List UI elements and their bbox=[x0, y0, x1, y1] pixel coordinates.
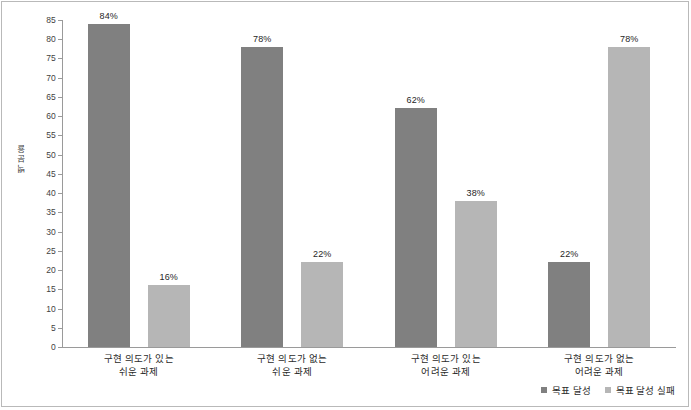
category-label-line1: 구현 의도가 없는 bbox=[523, 352, 677, 365]
y-axis-tick-label: 75 bbox=[46, 53, 56, 63]
y-axis-tick-label: 20 bbox=[46, 265, 56, 275]
y-axis-tick-label: 40 bbox=[46, 188, 56, 198]
x-axis-category-label: 구현 의도가 있는쉬운 과제 bbox=[62, 352, 216, 378]
legend-item[interactable]: 목표 달성 bbox=[541, 383, 591, 397]
chart-legend: 목표 달성목표 달성 실패 bbox=[541, 383, 675, 397]
category-label-line1: 구현 의도가 있는 bbox=[62, 352, 216, 365]
y-axis-tick-label: 55 bbox=[46, 130, 56, 140]
y-axis-tick-label: 60 bbox=[46, 111, 56, 121]
category-label-line2: 어려운 과제 bbox=[523, 365, 677, 378]
y-axis-tick-label: 70 bbox=[46, 73, 56, 83]
y-axis-tick-label: 45 bbox=[46, 169, 56, 179]
bar-value-label: 16% bbox=[159, 272, 178, 282]
bar[interactable]: 16% bbox=[148, 285, 190, 347]
y-axis-tick-label: 0 bbox=[51, 342, 56, 352]
bar-group: 22%78% bbox=[523, 20, 677, 347]
x-axis-line bbox=[62, 347, 676, 348]
bar-chart: 백분율 0510152025303540455055606570758085 8… bbox=[0, 0, 691, 410]
bar-group: 84%16% bbox=[62, 20, 216, 347]
y-axis-tick-label: 50 bbox=[46, 150, 56, 160]
legend-label: 목표 달성 실패 bbox=[616, 383, 675, 397]
y-axis-tick-label: 80 bbox=[46, 34, 56, 44]
bar[interactable]: 62% bbox=[395, 108, 437, 347]
y-axis-tick-label: 30 bbox=[46, 227, 56, 237]
legend-label: 목표 달성 bbox=[552, 383, 591, 397]
bar[interactable]: 84% bbox=[88, 24, 130, 347]
bar-value-label: 84% bbox=[99, 11, 118, 21]
legend-swatch-icon bbox=[541, 387, 547, 393]
category-label-line2: 쉬운 과제 bbox=[62, 365, 216, 378]
legend-swatch-icon bbox=[605, 387, 611, 393]
y-axis-ticks: 0510152025303540455055606570758085 bbox=[0, 20, 56, 347]
y-axis-tick-label: 5 bbox=[51, 323, 56, 333]
bar-group: 78%22% bbox=[216, 20, 370, 347]
x-axis-category-label: 구현 의도가 있는어려운 과제 bbox=[369, 352, 523, 378]
plot-area: 84%16%78%22%62%38%22%78% bbox=[62, 20, 676, 347]
y-axis-tick-label: 85 bbox=[46, 15, 56, 25]
category-label-line2: 어려운 과제 bbox=[369, 365, 523, 378]
bar-value-label: 22% bbox=[313, 249, 332, 259]
bar[interactable]: 78% bbox=[241, 47, 283, 347]
bar[interactable]: 38% bbox=[455, 201, 497, 347]
bar-value-label: 22% bbox=[560, 249, 579, 259]
bar[interactable]: 22% bbox=[548, 262, 590, 347]
x-axis-category-label: 구현 의도가 없는어려운 과제 bbox=[523, 352, 677, 378]
y-axis-tick-label: 10 bbox=[46, 304, 56, 314]
bar[interactable]: 78% bbox=[608, 47, 650, 347]
bar-group: 62%38% bbox=[369, 20, 523, 347]
bar-value-label: 78% bbox=[620, 34, 639, 44]
bar-value-label: 62% bbox=[406, 95, 425, 105]
y-axis-tick-label: 35 bbox=[46, 207, 56, 217]
y-axis-tick-label: 65 bbox=[46, 92, 56, 102]
legend-item[interactable]: 목표 달성 실패 bbox=[605, 383, 675, 397]
bar-value-label: 78% bbox=[253, 34, 272, 44]
category-label-line1: 구현 의도가 없는 bbox=[216, 352, 370, 365]
category-label-line2: 쉬운 과제 bbox=[216, 365, 370, 378]
y-axis-tick-label: 25 bbox=[46, 246, 56, 256]
y-axis-tick-label: 15 bbox=[46, 284, 56, 294]
x-axis-category-label: 구현 의도가 없는쉬운 과제 bbox=[216, 352, 370, 378]
bar[interactable]: 22% bbox=[301, 262, 343, 347]
category-label-line1: 구현 의도가 있는 bbox=[369, 352, 523, 365]
bar-value-label: 38% bbox=[466, 188, 485, 198]
